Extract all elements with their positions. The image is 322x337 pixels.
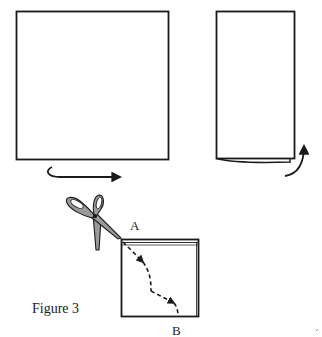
scissors-icon [66, 195, 121, 250]
scan-speck [316, 329, 318, 331]
figure-caption: Figure 3 [32, 301, 79, 316]
folding-diagram: A B Figure 3 [0, 0, 322, 337]
label-point-a: A [130, 218, 140, 233]
label-point-b: B [172, 323, 181, 337]
step-3-folded-square [122, 240, 199, 317]
step-1-square-sheet [17, 12, 169, 160]
step-2-folded-rectangle [217, 12, 295, 163]
curved-arrow-right-icon [48, 167, 120, 177]
